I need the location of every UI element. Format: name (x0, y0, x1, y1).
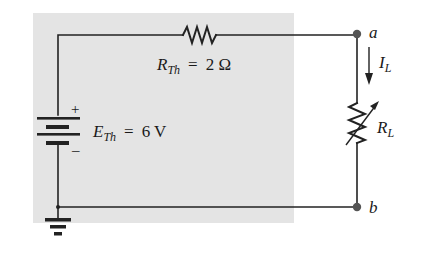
plus-sign: + (71, 101, 79, 117)
rth-label: RTh=2 Ω (156, 55, 231, 77)
load-resistor-label: RL (376, 118, 394, 140)
current-arrow-icon (365, 47, 373, 85)
minus-sign: – (71, 142, 80, 158)
terminal-b[interactable] (353, 203, 361, 211)
terminal-a[interactable] (353, 30, 361, 38)
eth-label: ETh=6 V (92, 122, 167, 144)
terminal-a-label: a (369, 23, 378, 42)
terminal-b-label: b (369, 198, 378, 217)
current-label: IL (378, 53, 392, 75)
circuit-diagram: a b IL RL RTh=2 Ω ETh=6 V + – (0, 0, 421, 255)
